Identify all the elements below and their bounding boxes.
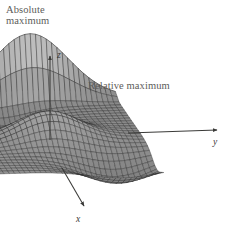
- relative-maximum-label: Relative maximum: [88, 80, 170, 91]
- z-axis-label: z: [57, 50, 61, 60]
- y-axis-label: y: [213, 137, 217, 147]
- absolute-maximum-label: Absolute maximum: [6, 4, 49, 26]
- surface-plot-figure: [0, 0, 229, 251]
- x-axis-label: x: [76, 214, 80, 224]
